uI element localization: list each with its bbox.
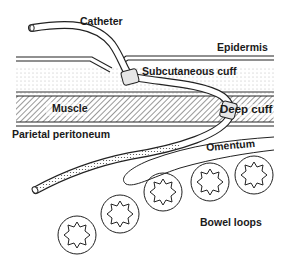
label-bowel-loops: Bowel loops bbox=[200, 217, 262, 228]
bowel-loop bbox=[58, 216, 96, 254]
bowel-loop bbox=[235, 156, 273, 194]
label-subcutaneous-cuff: Subcutaneous cuff bbox=[142, 66, 237, 77]
label-muscle: Muscle bbox=[52, 103, 88, 114]
label-deep-cuff: Deep cuff bbox=[220, 104, 272, 116]
bowel-loop bbox=[191, 163, 229, 201]
label-parietal-peritoneum: Parietal peritoneum bbox=[12, 129, 110, 140]
bowel-loops bbox=[58, 156, 273, 254]
bowel-loop bbox=[144, 173, 182, 211]
bowel-loop bbox=[101, 195, 139, 233]
label-catheter: Catheter bbox=[80, 16, 123, 27]
label-epidermis: Epidermis bbox=[217, 42, 268, 53]
